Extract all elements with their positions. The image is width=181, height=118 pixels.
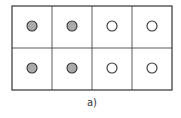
diagram-caption: a) (80, 97, 104, 108)
empty-circle-icon (107, 63, 117, 73)
filled-circle-icon (67, 63, 77, 73)
filled-circle-icon (27, 63, 37, 73)
filled-circle-icon (27, 21, 37, 31)
empty-circle-icon (107, 21, 117, 31)
empty-circle-icon (147, 21, 157, 31)
filled-circle-icon (67, 21, 77, 31)
grid-lines (12, 6, 172, 90)
empty-circle-icon (147, 63, 157, 73)
